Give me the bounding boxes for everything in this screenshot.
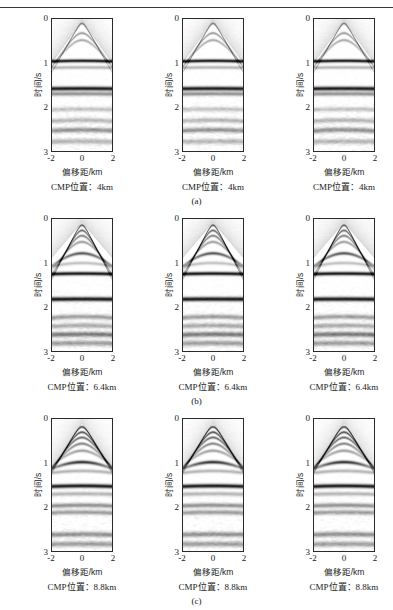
x-axis-tick-label: -2	[47, 552, 55, 563]
seismic-canvas	[183, 219, 243, 351]
x-axis-title: 偏移距/km	[182, 365, 244, 377]
seismic-canvas	[52, 19, 112, 151]
y-axis-title: 时间/s	[162, 273, 174, 298]
x-axis-tick-label: -2	[47, 152, 55, 163]
seismic-gather-image	[314, 419, 374, 551]
cmp-gather-panel: 时间/s0123-202偏移距/kmCMP位置：6.4km	[262, 212, 393, 412]
y-axis-tick-label: 2	[44, 503, 52, 512]
y-axis-tick-label: 0	[44, 14, 52, 23]
cmp-gather-panel: 时间/s0123-202偏移距/kmCMP位置：6.4km	[0, 212, 131, 412]
cmp-gather-panel: 时间/s0123-202偏移距/kmCMP位置：6.4km	[131, 212, 262, 412]
seismic-canvas	[314, 219, 374, 351]
plot-frame	[51, 418, 113, 552]
plot-area: 时间/s0123-202	[313, 18, 375, 152]
x-axis-title: 偏移距/km	[182, 165, 244, 177]
page-top-rule	[0, 7, 393, 8]
x-axis-tick-label: 2	[111, 552, 116, 563]
plot-area: 时间/s0123-202	[51, 418, 113, 552]
x-axis-tick-label: 2	[373, 152, 378, 163]
x-axis-tick-label: -2	[178, 352, 186, 363]
x-axis-title: 偏移距/km	[51, 565, 113, 577]
x-axis-tick-label: 0	[342, 152, 347, 163]
y-axis-tick-label: 0	[175, 214, 183, 223]
y-axis-tick-label: 1	[306, 258, 314, 267]
y-axis-title: 时间/s	[31, 273, 43, 298]
plot-frame	[182, 418, 244, 552]
y-axis-tick-label: 1	[175, 458, 183, 467]
y-axis-tick-label: 0	[44, 214, 52, 223]
y-axis-tick-label: 2	[306, 303, 314, 312]
plot-area: 时间/s0123-202	[182, 418, 244, 552]
seismic-canvas	[183, 419, 243, 551]
x-axis-tick-label: 0	[80, 352, 85, 363]
figure-seismic-cmp-gathers: 时间/s0123-202偏移距/kmCMP位置：4km时间/s0123-202偏…	[0, 12, 393, 610]
y-axis-tick-label: 2	[175, 303, 183, 312]
y-axis-tick-label: 1	[44, 58, 52, 67]
y-axis-tick-label: 0	[175, 414, 183, 423]
y-axis-tick-label: 2	[175, 103, 183, 112]
y-axis-title: 时间/s	[293, 473, 305, 498]
figure-row: 时间/s0123-202偏移距/kmCMP位置：4km时间/s0123-202偏…	[0, 12, 393, 212]
plot-frame	[182, 18, 244, 152]
x-axis-tick-label: 0	[342, 552, 347, 563]
x-axis-tick-label: 2	[242, 552, 247, 563]
plot-area: 时间/s0123-202	[313, 218, 375, 352]
x-axis-tick-label: 2	[111, 152, 116, 163]
subfigure-caption: (a)	[0, 196, 393, 206]
cmp-position-label: CMP位置：4km	[152, 180, 274, 193]
y-axis-tick-label: 0	[175, 14, 183, 23]
plot-frame	[51, 18, 113, 152]
x-axis-title: 偏移距/km	[313, 365, 375, 377]
y-axis-tick-label: 0	[306, 14, 314, 23]
cmp-gather-panel: 时间/s0123-202偏移距/kmCMP位置：4km	[131, 12, 262, 212]
x-axis-title: 偏移距/km	[182, 565, 244, 577]
cmp-gather-panel: 时间/s0123-202偏移距/kmCMP位置：8.8km	[0, 412, 131, 610]
x-axis-tick-label: -2	[47, 352, 55, 363]
cmp-position-label: CMP位置：6.4km	[283, 380, 393, 393]
seismic-gather-image	[52, 19, 112, 151]
seismic-canvas	[314, 19, 374, 151]
cmp-position-label: CMP位置：4km	[283, 180, 393, 193]
cmp-position-label: CMP位置：8.8km	[283, 580, 393, 593]
x-axis-tick-label: 0	[211, 552, 216, 563]
y-axis-title: 时间/s	[293, 273, 305, 298]
y-axis-tick-label: 1	[175, 58, 183, 67]
x-axis-tick-label: -2	[309, 352, 317, 363]
cmp-gather-panel: 时间/s0123-202偏移距/kmCMP位置：8.8km	[262, 412, 393, 610]
plot-area: 时间/s0123-202	[182, 18, 244, 152]
cmp-position-label: CMP位置：8.8km	[21, 580, 143, 593]
seismic-canvas	[52, 219, 112, 351]
cmp-gather-panel: 时间/s0123-202偏移距/kmCMP位置：8.8km	[131, 412, 262, 610]
y-axis-title: 时间/s	[162, 473, 174, 498]
plot-frame	[313, 218, 375, 352]
seismic-gather-image	[183, 19, 243, 151]
y-axis-tick-label: 2	[306, 103, 314, 112]
plot-area: 时间/s0123-202	[51, 218, 113, 352]
cmp-position-label: CMP位置：6.4km	[21, 380, 143, 393]
seismic-gather-image	[183, 219, 243, 351]
x-axis-tick-label: -2	[178, 152, 186, 163]
x-axis-title: 偏移距/km	[51, 165, 113, 177]
plot-frame	[51, 218, 113, 352]
cmp-gather-panel: 时间/s0123-202偏移距/kmCMP位置：4km	[262, 12, 393, 212]
y-axis-tick-label: 1	[306, 458, 314, 467]
x-axis-tick-label: 2	[242, 152, 247, 163]
y-axis-tick-label: 2	[44, 303, 52, 312]
plot-area: 时间/s0123-202	[51, 18, 113, 152]
figure-row: 时间/s0123-202偏移距/kmCMP位置：8.8km时间/s0123-20…	[0, 412, 393, 610]
seismic-canvas	[314, 419, 374, 551]
x-axis-title: 偏移距/km	[313, 165, 375, 177]
y-axis-title: 时间/s	[162, 73, 174, 98]
x-axis-tick-label: 0	[342, 352, 347, 363]
x-axis-tick-label: -2	[309, 552, 317, 563]
y-axis-tick-label: 2	[175, 503, 183, 512]
x-axis-tick-label: 0	[211, 152, 216, 163]
plot-frame	[313, 18, 375, 152]
y-axis-tick-label: 2	[44, 103, 52, 112]
x-axis-tick-label: 0	[80, 552, 85, 563]
x-axis-tick-label: -2	[309, 152, 317, 163]
figure-row: 时间/s0123-202偏移距/kmCMP位置：6.4km时间/s0123-20…	[0, 212, 393, 412]
subfigure-caption: (c)	[0, 596, 393, 606]
y-axis-tick-label: 1	[44, 458, 52, 467]
y-axis-title: 时间/s	[31, 473, 43, 498]
